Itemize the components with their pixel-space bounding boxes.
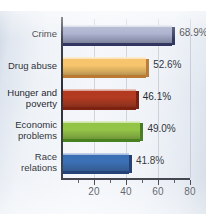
category-label-drug-abuse: Drug abuse: [2, 61, 57, 72]
x-tick-label-80: 80: [175, 186, 205, 197]
bar-highlight: [62, 121, 140, 123]
bar-bevel-bottom: [62, 107, 136, 110]
bar-face: [62, 57, 146, 76]
value-label-race-relations: 41.8%: [136, 155, 164, 166]
bar-wrapper: [62, 147, 129, 177]
category-label-crime: Crime: [2, 29, 57, 40]
bar-bevel-bottom: [62, 171, 129, 174]
bar-face: [62, 89, 136, 108]
category-label-economic-problems: Economicproblems: [2, 120, 57, 141]
bar-bevel-right: [140, 123, 143, 141]
bar-highlight: [62, 57, 146, 59]
category-label-hunger-and-poverty: Hunger andpoverty: [2, 88, 57, 109]
bar-wrapper: [62, 19, 172, 49]
bar-highlight: [62, 89, 136, 91]
bar-face: [62, 121, 140, 140]
bar-bevel-bottom: [62, 139, 140, 142]
category-label-line: Economic: [2, 120, 57, 131]
x-tick-major-40: [126, 180, 127, 185]
bar-wrapper: [62, 115, 140, 145]
x-tick-major-80: [190, 180, 191, 185]
bar-crime: [62, 25, 172, 43]
category-label-line: relations: [2, 163, 57, 174]
y-axis-line: [61, 17, 63, 180]
x-tick-minor-10: [78, 180, 79, 183]
value-label-economic-problems: 49.0%: [147, 123, 175, 134]
x-tick-major-60: [158, 180, 159, 185]
category-label-line: Hunger and: [2, 88, 57, 99]
x-tick-minor-50: [142, 180, 143, 183]
bar-face: [62, 25, 172, 44]
x-tick-major-20: [94, 180, 95, 185]
x-tick-label-40: 40: [111, 186, 141, 197]
plot-area: Crime68.9%Drug abuse52.6%Hunger andpover…: [0, 11, 206, 214]
value-label-crime: 68.9%: [179, 27, 206, 38]
bar-bevel-right: [129, 155, 132, 173]
category-label-line: Race: [2, 152, 57, 163]
bar-wrapper: [62, 51, 146, 81]
value-label-drug-abuse: 52.6%: [153, 59, 181, 70]
value-label-hunger-and-poverty: 46.1%: [143, 91, 171, 102]
x-tick-minor-30: [110, 180, 111, 183]
category-label-line: poverty: [2, 99, 57, 110]
category-label-race-relations: Racerelations: [2, 152, 57, 173]
x-tick-minor-70: [174, 180, 175, 183]
category-label-line: Crime: [2, 29, 57, 40]
bar-bevel-bottom: [62, 75, 146, 78]
bar-economic-problems: [62, 121, 140, 139]
bar-bevel-right: [136, 91, 139, 109]
bar-drug-abuse: [62, 57, 146, 75]
bar-wrapper: [62, 83, 136, 113]
bar-bevel-right: [146, 59, 149, 77]
bar-row: Hunger andpoverty46.1%: [0, 83, 206, 113]
category-label-line: problems: [2, 131, 57, 142]
bar-hunger-and-poverty: [62, 89, 136, 107]
category-label-line: Drug abuse: [2, 61, 57, 72]
bar-face: [62, 153, 129, 172]
bar-bevel-right: [172, 27, 175, 45]
bar-bevel-bottom: [62, 43, 172, 46]
bar-highlight: [62, 25, 172, 27]
x-tick-label-20: 20: [79, 186, 109, 197]
bar-row: Drug abuse52.6%: [0, 51, 206, 81]
bottom-white-margin: [0, 214, 206, 221]
bar-highlight: [62, 153, 129, 155]
x-tick-label-60: 60: [143, 186, 173, 197]
bar-chart-figure: Crime68.9%Drug abuse52.6%Hunger andpover…: [0, 0, 206, 221]
bar-row: Crime68.9%: [0, 19, 206, 49]
bar-row: Economicproblems49.0%: [0, 115, 206, 145]
bar-row: Racerelations41.8%: [0, 147, 206, 177]
top-white-margin: [0, 0, 206, 11]
bar-race-relations: [62, 153, 129, 171]
